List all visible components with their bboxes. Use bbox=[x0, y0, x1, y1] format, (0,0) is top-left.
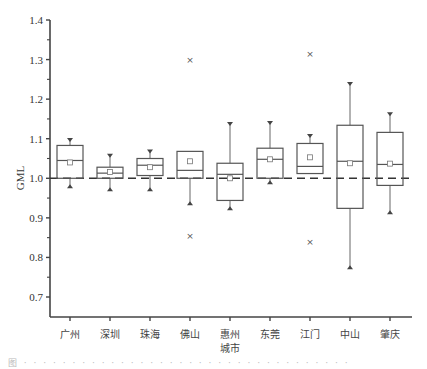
y-tick-label: 1.4 bbox=[29, 14, 43, 26]
mean-marker-icon bbox=[108, 169, 113, 174]
box-6 bbox=[257, 121, 283, 184]
whisker-cap-icon bbox=[147, 187, 153, 191]
y-tick-label: 1.1 bbox=[29, 133, 43, 145]
whisker-cap-icon bbox=[347, 82, 353, 86]
box-plot-chart: 0.70.80.91.01.11.21.31.4 广州深圳珠海佛山惠州城市东莞江… bbox=[0, 0, 427, 369]
mean-marker-icon bbox=[348, 161, 353, 166]
x-category-label: 佛山 bbox=[180, 328, 200, 340]
whisker-cap-icon bbox=[107, 187, 113, 191]
whisker-cap-icon bbox=[107, 154, 113, 158]
y-tick-label: 0.8 bbox=[29, 251, 43, 263]
y-axis-title: GML bbox=[14, 166, 26, 191]
whisker-cap-icon bbox=[67, 184, 73, 188]
box-2 bbox=[97, 154, 123, 192]
x-category-label: 江门 bbox=[300, 328, 320, 340]
whisker-cap-icon bbox=[387, 112, 393, 116]
whisker-cap-icon bbox=[267, 121, 273, 125]
whisker-cap-icon bbox=[147, 149, 153, 153]
whisker-cap-icon bbox=[307, 134, 313, 138]
mean-marker-icon bbox=[308, 155, 313, 160]
x-category-label: 珠海 bbox=[140, 328, 160, 340]
box-1 bbox=[57, 138, 83, 188]
outlier-marker-icon: × bbox=[306, 49, 314, 59]
x-axis: 广州深圳珠海佛山惠州城市东莞江门中山肇庆 bbox=[50, 317, 412, 354]
x-category-label: 城市 bbox=[220, 342, 240, 354]
x-category-label: 东莞 bbox=[260, 328, 280, 340]
mean-marker-icon bbox=[68, 160, 73, 165]
y-tick-label: 0.9 bbox=[29, 212, 43, 224]
x-category-label: 中山 bbox=[340, 328, 360, 340]
outlier-marker-icon: × bbox=[186, 55, 194, 65]
y-tick-label: 1.3 bbox=[29, 54, 43, 66]
whisker-cap-icon bbox=[347, 265, 353, 269]
mean-marker-icon bbox=[228, 176, 233, 181]
whisker-cap-icon bbox=[67, 138, 73, 142]
whisker-cap-icon bbox=[227, 122, 233, 126]
mean-marker-icon bbox=[188, 159, 193, 164]
y-axis: 0.70.80.91.01.11.21.31.4 bbox=[29, 14, 50, 317]
mean-marker-icon bbox=[148, 165, 153, 170]
x-category-label: 肇庆 bbox=[380, 328, 400, 340]
box-4: ×× bbox=[177, 55, 203, 242]
y-tick-label: 0.7 bbox=[29, 291, 43, 303]
box-9 bbox=[377, 112, 403, 214]
outlier-marker-icon: × bbox=[186, 231, 194, 241]
whisker-cap-icon bbox=[187, 201, 193, 205]
x-category-label: 广州 bbox=[60, 329, 80, 340]
whisker-cap-icon bbox=[387, 210, 393, 214]
mean-marker-icon bbox=[268, 157, 273, 162]
mean-marker-icon bbox=[388, 161, 393, 166]
box-5 bbox=[217, 122, 243, 210]
y-tick-label: 1.0 bbox=[29, 172, 43, 184]
whisker-cap-icon bbox=[267, 180, 273, 184]
boxes: ×××× bbox=[57, 49, 403, 269]
box-7: ×× bbox=[297, 49, 323, 246]
figure-caption: 图 · · · · · · · · · · · · · · · · · · · … bbox=[8, 356, 419, 369]
x-category-label: 深圳 bbox=[100, 329, 120, 340]
box-3 bbox=[137, 149, 163, 191]
x-category-label: 惠州 bbox=[220, 328, 240, 340]
whisker-cap-icon bbox=[227, 206, 233, 210]
y-tick-label: 1.2 bbox=[29, 93, 43, 105]
outlier-marker-icon: × bbox=[306, 237, 314, 247]
box-8 bbox=[337, 82, 363, 269]
